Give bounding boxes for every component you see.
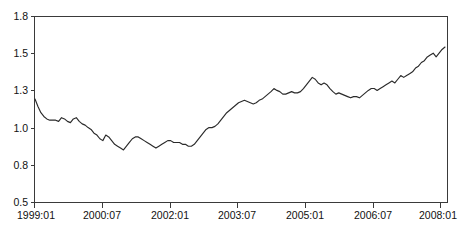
line-chart: 1.8 1.5 1.3 1.0 0.8 0.5 1999:01 2000:07 … — [0, 0, 461, 230]
y-tick-label: 1.8 — [13, 10, 28, 22]
y-tick-label: 1.5 — [13, 47, 28, 59]
y-tick-label: 0.5 — [13, 196, 28, 208]
x-tick-label: 2002:01 — [151, 209, 189, 221]
y-tick-label: 1.3 — [13, 84, 28, 96]
data-series-line — [35, 47, 445, 150]
y-tick-marks — [31, 17, 35, 203]
x-tick-labels: 1999:01 2000:07 2002:01 2003:07 2005:01 … — [17, 209, 457, 221]
x-tick-marks — [35, 203, 441, 208]
y-tick-label: 1.0 — [13, 122, 28, 134]
x-tick-label: 1999:01 — [17, 209, 55, 221]
x-tick-label: 2003:07 — [218, 209, 256, 221]
x-tick-label: 2005:01 — [286, 209, 324, 221]
x-tick-label: 2006:07 — [354, 209, 392, 221]
x-tick-label: 2000:07 — [83, 209, 121, 221]
chart-figure: 1.8 1.5 1.3 1.0 0.8 0.5 1999:01 2000:07 … — [0, 0, 461, 230]
y-tick-label: 0.8 — [13, 159, 28, 171]
x-tick-label: 2008:01 — [419, 209, 457, 221]
y-tick-labels: 1.8 1.5 1.3 1.0 0.8 0.5 — [13, 10, 28, 208]
plot-frame — [35, 17, 448, 203]
